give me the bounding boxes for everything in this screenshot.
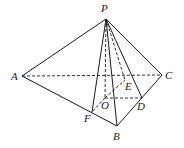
vertex-label-D: D — [136, 100, 145, 112]
vertex-label-O: O — [101, 99, 109, 111]
edge-PA — [22, 19, 106, 76]
hidden-edge-OE — [105, 80, 125, 98]
edge-PC — [106, 19, 162, 75]
vertex-label-P: P — [100, 2, 108, 14]
hidden-edge-AC — [22, 75, 162, 76]
edge-PD — [106, 19, 142, 98]
vertex-label-E: E — [124, 80, 132, 92]
vertex-label-B: B — [113, 130, 120, 142]
hidden-edge-PO — [105, 19, 106, 98]
vertex-label-A: A — [10, 70, 18, 82]
vertex-label-C: C — [165, 69, 173, 81]
pyramid-diagram: PABCODEF — [0, 0, 184, 148]
vertex-label-F: F — [83, 112, 91, 124]
